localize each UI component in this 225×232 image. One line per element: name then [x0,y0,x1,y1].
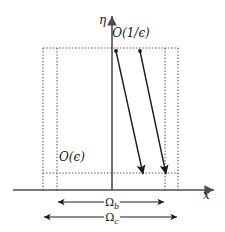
trajectory-right [140,51,166,174]
y-axis-label: η [99,13,107,27]
omega-b-symbol: Ω [105,196,114,209]
omega-b-subscript: b [114,202,119,211]
omega-c-subscript: c [114,217,119,226]
omega-b-extent: Ωb [58,196,164,211]
scale-label-bottom: O(ϵ) [59,150,85,164]
dotted-region-group [43,48,178,190]
schematic-canvas: η x O(1/ϵ) O(ϵ) Ωb Ωc [0,0,225,232]
omega-c-symbol: Ω [105,211,114,224]
trajectory-right-start-dot [138,49,142,53]
omega-c-extent: Ωc [44,211,177,226]
x-axis-label: x [203,188,210,202]
trajectory-left [116,51,143,174]
trajectory-group [114,49,166,174]
scale-label-top: O(1/ϵ) [112,26,150,40]
omega-c-label: Ωc [105,211,119,226]
trajectory-left-start-dot [114,49,118,53]
figure-root: η x O(1/ϵ) O(ϵ) Ωb Ωc [0,0,225,232]
omega-b-label: Ωb [105,196,119,211]
